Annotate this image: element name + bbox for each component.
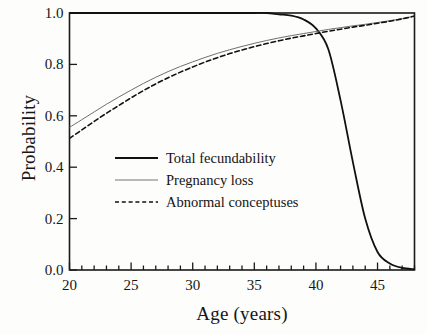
y-tick-label: 1.0 — [45, 5, 64, 21]
y-tick-label: 0.2 — [45, 211, 64, 227]
legend-label: Total fecundability — [166, 150, 276, 166]
legend-label: Abnormal conceptuses — [166, 194, 299, 210]
x-tick-label: 40 — [308, 277, 323, 293]
fecundability-chart-figure: Probability Age (years) 2025303540450.00… — [0, 0, 427, 334]
x-tick-label: 25 — [124, 277, 139, 293]
y-tick-label: 0.4 — [45, 159, 64, 175]
x-tick-label: 45 — [370, 277, 385, 293]
y-tick-label: 0.0 — [45, 262, 64, 278]
y-tick-label: 0.8 — [45, 56, 64, 72]
axes-frame — [70, 13, 415, 270]
axis-ticks — [70, 13, 415, 270]
x-tick-label: 30 — [185, 277, 200, 293]
x-tick-label: 20 — [62, 277, 77, 293]
plot-canvas: 2025303540450.00.20.40.60.81.0 Total fec… — [0, 0, 427, 334]
x-tick-label: 35 — [247, 277, 262, 293]
legend-label: Pregnancy loss — [166, 172, 254, 188]
series-line — [70, 16, 415, 127]
data-series — [70, 13, 415, 269]
series-line — [70, 13, 415, 269]
axis-tick-labels: 2025303540450.00.20.40.60.81.0 — [45, 5, 385, 293]
y-tick-label: 0.6 — [45, 108, 64, 124]
chart-legend: Total fecundabilityPregnancy lossAbnorma… — [115, 150, 299, 210]
series-line — [70, 16, 415, 138]
